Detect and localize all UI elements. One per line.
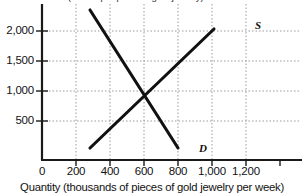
y-tick-label-2000: 2,000 — [0, 24, 34, 36]
x-tick-label-600: 600 — [126, 165, 162, 177]
supply-curve-label: S — [255, 19, 261, 31]
supply-and-demand-chart: Price (dollars per piece of gold jewelry… — [0, 0, 304, 196]
x-tick-label-200: 200 — [58, 165, 94, 177]
x-tick-label-800: 800 — [160, 165, 196, 177]
y-tick-label-500: 500 — [0, 114, 34, 126]
supply-curve — [90, 29, 214, 148]
gridlines-horizontal — [42, 31, 300, 121]
x-tick-label-1000: 1,000 — [193, 165, 231, 177]
x-tick-label-0: 0 — [30, 165, 54, 177]
x-tick-label-1200: 1,200 — [227, 165, 265, 177]
x-tick-label-400: 400 — [92, 165, 128, 177]
x-axis-title: Quantity (thousands of pieces of gold je… — [0, 181, 304, 193]
demand-curve-label: D — [199, 142, 207, 154]
y-tick-label-1500: 1,500 — [0, 54, 34, 66]
y-tick-label-1000: 1,000 — [0, 84, 34, 96]
